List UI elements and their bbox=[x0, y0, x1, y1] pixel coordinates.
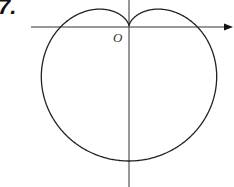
cardioid-figure bbox=[0, 0, 234, 187]
origin-label: O bbox=[113, 30, 122, 46]
x-axis-arrow-icon bbox=[224, 24, 233, 31]
